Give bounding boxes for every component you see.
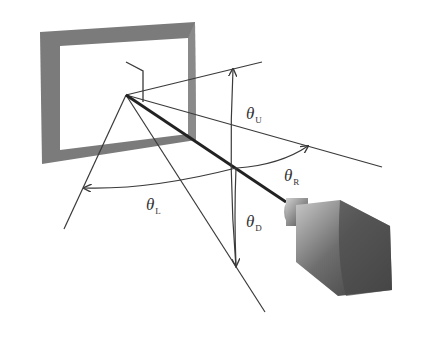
theta-l-arc [84, 168, 236, 188]
theta-l-label: θL [146, 195, 161, 216]
theta-r-arc [237, 146, 308, 168]
theta-d-arc [235, 168, 236, 266]
theta-d-label: θD [246, 212, 262, 233]
camera-axis [126, 95, 286, 202]
display-frame [40, 22, 196, 164]
camera [284, 198, 392, 296]
theta-r-label: θR [284, 166, 299, 187]
viewing-angle-diagram: θU θR θL θD [0, 0, 423, 337]
theta-u-label: θU [246, 104, 262, 125]
